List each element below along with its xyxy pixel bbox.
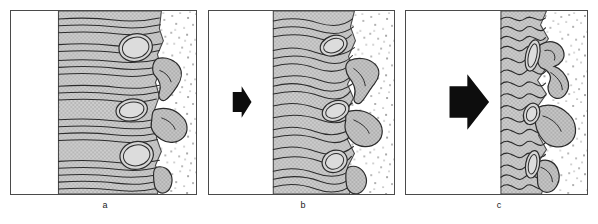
- panel-a: [10, 10, 197, 195]
- panel-b: [208, 10, 395, 195]
- lobe-lower: [537, 160, 559, 192]
- panel-b-illustration: [209, 11, 394, 194]
- lobe-lower: [154, 167, 172, 193]
- panel-label-a: a: [95, 200, 115, 210]
- panel-label-b: b: [293, 200, 313, 210]
- panel-label-c: c: [489, 200, 509, 210]
- panel-a-illustration: [11, 11, 196, 194]
- panel-c-illustration: [406, 11, 587, 194]
- figure-container: a b c: [0, 0, 598, 224]
- panel-c: [405, 10, 588, 195]
